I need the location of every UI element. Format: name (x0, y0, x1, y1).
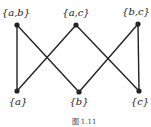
node-ac (73, 22, 78, 27)
node-bc (135, 21, 140, 26)
edge-bc-b (79, 24, 138, 92)
node-label-b: {b} (69, 97, 88, 107)
node-b (76, 89, 81, 94)
edge-ab-b (17, 25, 79, 92)
node-label-ab: {a,b} (2, 8, 30, 18)
figure-caption: 图 1.11 (72, 116, 97, 126)
node-ab (14, 22, 19, 27)
node-c (136, 88, 141, 93)
edge-bc-c (138, 24, 139, 91)
node-label-ac: {a,c} (62, 8, 89, 18)
node-label-c: {c} (131, 97, 149, 107)
node-a (14, 88, 19, 93)
node-label-a: {a} (9, 97, 28, 107)
edge-ac-c (76, 25, 139, 91)
hasse-diagram (0, 0, 151, 127)
node-label-bc: {b,c} (122, 7, 150, 17)
